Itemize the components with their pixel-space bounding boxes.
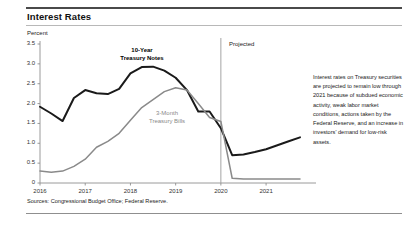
figure-container: Interest Rates Percent 10-Year Treasury … — [0, 0, 413, 227]
series-label-line1: 3-Month — [137, 110, 197, 118]
x-axis-tick-label: 2019 — [163, 188, 189, 194]
x-axis-tick-label: 2020 — [208, 188, 234, 194]
y-axis-tick-label: 2.0 — [17, 100, 35, 106]
y-axis-tick-label: 0 — [17, 179, 35, 185]
series-label-line2: Treasury Bills — [137, 118, 197, 126]
series-label-line1: 10-Year — [108, 47, 176, 55]
series-label-line2: Treasury Notes — [108, 55, 176, 63]
y-axis-tick-label: 2.5 — [17, 80, 35, 86]
x-axis-tick-label: 2016 — [27, 188, 53, 194]
y-axis-tick-label: 1.0 — [17, 139, 35, 145]
projected-annotation-label: Projected — [229, 41, 254, 47]
bottom-rule — [26, 213, 402, 214]
source-note: Sources: Congressional Budget Office; Fe… — [27, 198, 168, 204]
x-axis-tick-label: 2018 — [117, 188, 143, 194]
y-axis-tick-label: 0.5 — [17, 159, 35, 165]
y-axis-tick-label: 3.5 — [17, 40, 35, 46]
y-axis-tick-label: 3.0 — [17, 60, 35, 66]
x-axis-tick-label: 2021 — [253, 188, 279, 194]
y-axis-tick-label: 1.5 — [17, 119, 35, 125]
series-label-10-year-treasury-notes: 10-Year Treasury Notes — [108, 47, 176, 62]
side-annotation-text: Interest rates on Treasury securities ar… — [313, 73, 405, 147]
series-line — [40, 88, 300, 179]
x-axis-tick-label: 2017 — [72, 188, 98, 194]
series-label-3-month-treasury-bills: 3-Month Treasury Bills — [137, 110, 197, 125]
